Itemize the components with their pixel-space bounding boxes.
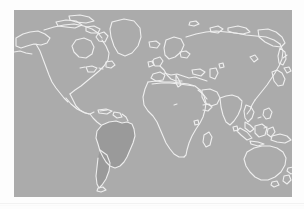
page-background xyxy=(0,0,304,209)
world-map-figure xyxy=(14,10,292,197)
figure-caption xyxy=(14,198,292,202)
horizontal-divider xyxy=(0,203,304,204)
world-map-svg xyxy=(14,10,292,197)
ocean-background xyxy=(14,10,292,197)
horizontal-divider-secondary xyxy=(0,205,304,206)
